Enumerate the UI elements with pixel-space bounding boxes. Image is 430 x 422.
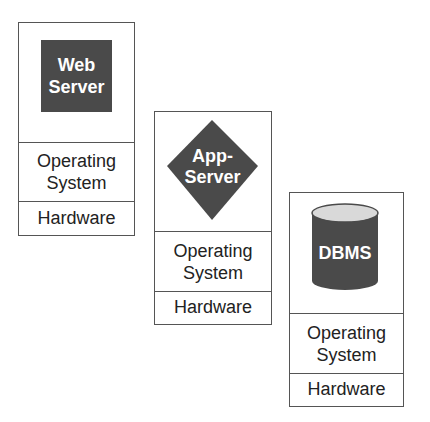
web-server-layer: Web Server (19, 23, 134, 143)
os-label: Operating System (173, 240, 252, 284)
web-server-label-line2: Server (48, 77, 104, 97)
dbms-hw-layer: Hardware (290, 374, 403, 405)
web-server-stack: Web Server Operating System Hardware (18, 22, 135, 236)
web-server-square-icon: Web Server (19, 23, 133, 143)
dbms-stack: DBMS Operating System Hardware (289, 192, 404, 407)
app-server-diamond-icon: App- Server (155, 112, 270, 232)
web-server-label-line1: Web (58, 55, 96, 75)
app-server-label-line1: App- (192, 146, 233, 166)
os-label: Operating System (307, 322, 386, 366)
dbms-label: DBMS (319, 243, 372, 263)
app-server-os-layer: Operating System (155, 232, 271, 292)
hardware-label: Hardware (307, 379, 385, 400)
dbms-os-layer: Operating System (290, 314, 403, 374)
dbms-layer: DBMS (290, 193, 403, 314)
database-cylinder-icon: DBMS (290, 193, 402, 314)
hardware-label: Hardware (37, 208, 115, 229)
hardware-label: Hardware (174, 297, 252, 318)
os-label: Operating System (37, 150, 116, 194)
web-server-os-layer: Operating System (19, 143, 134, 202)
app-server-layer: App- Server (155, 112, 271, 232)
app-server-hw-layer: Hardware (155, 292, 271, 323)
app-server-stack: App- Server Operating System Hardware (154, 111, 272, 325)
web-server-hw-layer: Hardware (19, 202, 134, 234)
app-server-label-line2: Server (184, 167, 240, 187)
